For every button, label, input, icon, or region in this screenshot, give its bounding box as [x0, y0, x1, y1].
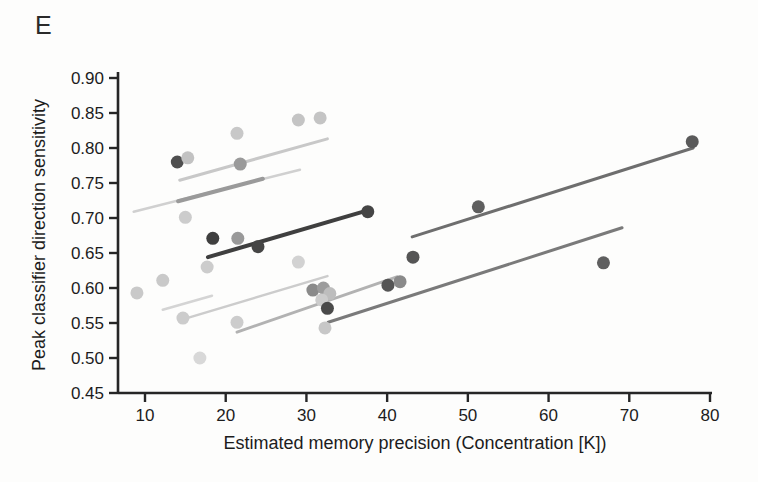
x-tick-label: 80 [701, 406, 720, 425]
data-point [686, 135, 699, 148]
scatter-plot: 0.450.500.550.600.650.700.750.800.850.90… [0, 0, 758, 482]
regression-line [208, 210, 370, 258]
regression-line [163, 296, 212, 310]
data-point [234, 158, 247, 171]
data-point [231, 232, 244, 245]
x-tick-label: 40 [378, 406, 397, 425]
data-point [597, 256, 610, 269]
data-point [181, 151, 194, 164]
y-tick-label: 0.85 [71, 104, 104, 123]
data-point [231, 127, 244, 140]
y-tick-label: 0.65 [71, 244, 104, 263]
y-tick-label: 0.50 [71, 349, 104, 368]
x-tick-label: 50 [458, 406, 477, 425]
x-tick-label: 60 [539, 406, 558, 425]
y-tick-label: 0.55 [71, 314, 104, 333]
data-point [394, 275, 407, 288]
data-point [318, 321, 331, 334]
x-tick-label: 10 [136, 406, 155, 425]
data-point [252, 240, 265, 253]
data-point [201, 261, 214, 274]
x-axis-title: Estimated memory precision (Concentratio… [118, 433, 712, 454]
x-tick-label: 30 [297, 406, 316, 425]
figure-panel: E Peak classifier direction sensitivity … [0, 0, 758, 482]
regression-line [178, 179, 263, 201]
data-point [361, 205, 374, 218]
y-tick-label: 0.60 [71, 279, 104, 298]
regression-line [328, 228, 622, 322]
x-tick-label: 70 [620, 406, 639, 425]
data-point [292, 256, 305, 269]
regression-line [412, 148, 693, 237]
data-point [381, 279, 394, 292]
y-tick-label: 0.90 [71, 69, 104, 88]
data-point [406, 251, 419, 264]
data-point [193, 352, 206, 365]
data-point [179, 211, 192, 224]
y-tick-label: 0.45 [71, 384, 104, 403]
data-point [472, 200, 485, 213]
y-tick-label: 0.75 [71, 174, 104, 193]
data-point [321, 302, 334, 315]
data-point [176, 312, 189, 325]
data-point [156, 274, 169, 287]
data-point [231, 316, 244, 329]
data-point [314, 111, 327, 124]
data-point [292, 114, 305, 127]
y-tick-label: 0.80 [71, 139, 104, 158]
x-tick-label: 20 [216, 406, 235, 425]
regression-line [180, 139, 328, 180]
y-tick-label: 0.70 [71, 209, 104, 228]
data-point [130, 286, 143, 299]
data-point [206, 232, 219, 245]
